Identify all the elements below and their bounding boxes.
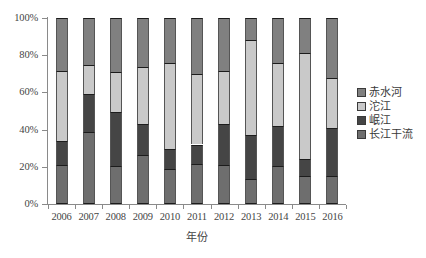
x-axis-tick	[319, 205, 320, 209]
y-axis-tick-label: 40%	[0, 125, 38, 135]
bar-segment-沱江[interactable]	[164, 63, 176, 149]
legend-swatch-icon	[357, 130, 366, 139]
bar-2007[interactable]	[83, 18, 95, 204]
bar-segment-长江干流[interactable]	[56, 165, 68, 204]
bar-segment-赤水河[interactable]	[218, 18, 230, 71]
bar-segment-赤水河[interactable]	[83, 18, 95, 65]
bar-segment-长江干流[interactable]	[272, 166, 284, 204]
y-axis-tick-label: 0%	[0, 199, 38, 209]
legend-item-label: 赤水河	[369, 87, 402, 99]
bar-segment-长江干流[interactable]	[164, 169, 176, 204]
bar-2012[interactable]	[218, 18, 230, 204]
bar-2013[interactable]	[245, 18, 257, 204]
y-axis-tick	[42, 204, 47, 205]
bar-segment-沱江[interactable]	[191, 74, 203, 145]
x-axis-tick	[265, 205, 266, 209]
bar-segment-沱江[interactable]	[218, 71, 230, 124]
y-axis-tick	[42, 92, 47, 93]
y-axis-tick	[42, 55, 47, 56]
bar-segment-长江干流[interactable]	[299, 176, 311, 204]
bar-segment-赤水河[interactable]	[137, 18, 149, 67]
x-axis-tick	[211, 205, 212, 209]
x-axis-tick	[102, 205, 103, 209]
bar-segment-岷江[interactable]	[326, 128, 338, 176]
bar-segment-赤水河[interactable]	[245, 18, 257, 40]
legend-item-label: 长江干流	[369, 129, 413, 141]
bar-segment-长江干流[interactable]	[245, 179, 257, 204]
x-axis-tick	[346, 205, 347, 209]
y-axis-tick-label: 60%	[0, 87, 38, 97]
bar-segment-赤水河[interactable]	[164, 18, 176, 63]
bar-segment-赤水河[interactable]	[56, 18, 68, 71]
bar-segment-岷江[interactable]	[83, 94, 95, 132]
bar-segment-沱江[interactable]	[272, 63, 284, 126]
y-axis-tick	[42, 18, 47, 19]
bar-segment-赤水河[interactable]	[272, 18, 284, 63]
x-axis-tick	[292, 205, 293, 209]
bar-segment-长江干流[interactable]	[218, 165, 230, 204]
legend-item-label: 沱江	[369, 101, 391, 113]
x-axis-tick	[129, 205, 130, 209]
bar-segment-岷江[interactable]	[245, 135, 257, 179]
bar-segment-岷江[interactable]	[218, 124, 230, 165]
bar-segment-沱江[interactable]	[299, 53, 311, 159]
legend-item-label: 岷江	[369, 115, 391, 127]
bar-segment-岷江[interactable]	[56, 141, 68, 165]
bar-segment-岷江[interactable]	[272, 126, 284, 166]
bar-2011[interactable]	[191, 18, 203, 204]
bar-2015[interactable]	[299, 18, 311, 204]
x-axis-tick-label: 2016	[315, 211, 349, 223]
chart-legend: 赤水河沱江岷江长江干流	[357, 86, 425, 142]
stacked-bar-chart: 0%20%40%60%80%100% 200620072008200920102…	[0, 0, 426, 258]
bar-segment-岷江[interactable]	[299, 159, 311, 176]
legend-item-沱江[interactable]: 沱江	[357, 100, 425, 113]
plot-area	[48, 18, 346, 204]
bar-2010[interactable]	[164, 18, 176, 204]
bar-segment-沱江[interactable]	[137, 67, 149, 124]
x-axis-tick	[75, 205, 76, 209]
x-axis-title: 年份	[48, 228, 346, 244]
bar-segment-沱江[interactable]	[83, 65, 95, 95]
legend-item-长江干流[interactable]: 长江干流	[357, 128, 425, 141]
y-axis-tick-label: 100%	[0, 13, 38, 23]
legend-swatch-icon	[357, 102, 366, 111]
bar-segment-赤水河[interactable]	[299, 18, 311, 53]
bar-segment-岷江[interactable]	[137, 124, 149, 155]
bar-segment-沱江[interactable]	[110, 72, 122, 112]
bar-segment-岷江[interactable]	[164, 149, 176, 169]
bar-segment-赤水河[interactable]	[191, 18, 203, 74]
y-axis-tick	[42, 130, 47, 131]
bar-segment-赤水河[interactable]	[110, 18, 122, 72]
x-axis-tick	[183, 205, 184, 209]
bar-segment-沱江[interactable]	[245, 40, 257, 135]
bar-segment-长江干流[interactable]	[137, 155, 149, 204]
bar-2014[interactable]	[272, 18, 284, 204]
bar-2006[interactable]	[56, 18, 68, 204]
y-axis-tick-label: 80%	[0, 50, 38, 60]
bar-segment-长江干流[interactable]	[191, 164, 203, 204]
y-axis-tick-label: 20%	[0, 162, 38, 172]
bar-2009[interactable]	[137, 18, 149, 204]
bar-segment-沱江[interactable]	[56, 71, 68, 141]
bar-segment-长江干流[interactable]	[326, 176, 338, 204]
legend-swatch-icon	[357, 88, 366, 97]
bar-segment-岷江[interactable]	[110, 112, 122, 166]
x-axis-tick	[156, 205, 157, 209]
bar-segment-赤水河[interactable]	[326, 18, 338, 78]
legend-item-赤水河[interactable]: 赤水河	[357, 86, 425, 99]
y-axis-tick	[42, 167, 47, 168]
bar-segment-长江干流[interactable]	[83, 132, 95, 204]
legend-swatch-icon	[357, 116, 366, 125]
legend-item-岷江[interactable]: 岷江	[357, 114, 425, 127]
bar-segment-岷江[interactable]	[191, 145, 203, 165]
bar-2008[interactable]	[110, 18, 122, 204]
x-axis-line	[47, 204, 346, 205]
bar-segment-长江干流[interactable]	[110, 166, 122, 204]
bar-2016[interactable]	[326, 18, 338, 204]
x-axis-tick	[238, 205, 239, 209]
x-axis-tick	[48, 205, 49, 209]
bar-segment-沱江[interactable]	[326, 78, 338, 128]
